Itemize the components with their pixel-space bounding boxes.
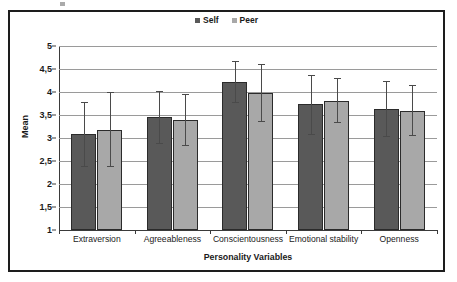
error-bar bbox=[386, 81, 387, 136]
error-bar-cap-top bbox=[334, 78, 341, 79]
bar-group bbox=[210, 46, 286, 230]
y-axis-tick-mark bbox=[52, 138, 56, 139]
y-axis-tick-label: 3,5 bbox=[39, 110, 52, 120]
error-bar bbox=[337, 78, 338, 123]
error-bar-cap-bottom bbox=[81, 166, 88, 167]
y-axis-tick-label: 1,5 bbox=[39, 202, 52, 212]
error-bar bbox=[261, 64, 262, 122]
error-bar-cap-top bbox=[156, 91, 163, 92]
x-axis-title: Personality Variables bbox=[59, 252, 437, 262]
legend-swatch-self-icon bbox=[195, 18, 200, 23]
chart-legend: Self Peer bbox=[10, 15, 443, 25]
error-bar-cap-bottom bbox=[107, 166, 114, 167]
x-axis-category-label: Openness bbox=[380, 234, 419, 244]
error-bar-cap-bottom bbox=[258, 121, 265, 122]
x-axis-tick-mark bbox=[210, 230, 211, 234]
error-bar bbox=[185, 94, 186, 146]
x-axis-category-label: Conscientousness bbox=[213, 234, 283, 244]
x-axis-tick-mark bbox=[361, 230, 362, 234]
error-bar-cap-bottom bbox=[232, 102, 239, 103]
y-axis-tick-mark bbox=[52, 92, 56, 93]
x-axis-tick-mark bbox=[59, 230, 60, 234]
error-bar bbox=[412, 85, 413, 136]
x-axis-category-labels: ExtraversionAgreeablenessConscientousnes… bbox=[59, 234, 437, 250]
error-bar-cap-top bbox=[107, 92, 114, 93]
plot-area bbox=[59, 46, 437, 230]
y-axis-title: Mean bbox=[20, 115, 30, 138]
x-axis-tick-mark bbox=[135, 230, 136, 234]
y-axis-tick-mark bbox=[52, 46, 56, 47]
x-axis-category-label: Emotional stability bbox=[289, 234, 358, 244]
error-bar-cap-bottom bbox=[308, 134, 315, 135]
error-bar-cap-top bbox=[232, 61, 239, 62]
y-axis-tick-mark bbox=[52, 161, 56, 162]
error-bar bbox=[84, 102, 85, 166]
error-bar-cap-top bbox=[308, 75, 315, 76]
legend-label-self: Self bbox=[203, 15, 219, 25]
y-axis-tick-label: 2,5 bbox=[39, 156, 52, 166]
legend-label-peer: Peer bbox=[240, 15, 258, 25]
y-axis-tick-label: 4,5 bbox=[39, 64, 52, 74]
legend-entry-peer: Peer bbox=[232, 15, 258, 25]
x-axis-category-label: Extraversion bbox=[73, 234, 121, 244]
y-axis-tick-mark bbox=[52, 184, 56, 185]
y-axis-tick-labels: 11,522,533,544,55 bbox=[30, 46, 56, 230]
bar-group bbox=[286, 46, 362, 230]
x-axis-category-label: Agreeableness bbox=[144, 234, 201, 244]
x-axis-tick-mark bbox=[437, 230, 438, 234]
error-bar-cap-bottom bbox=[334, 122, 341, 123]
chart-figure-frame: Self Peer Mean 11,522,533,544,55 Extrave… bbox=[8, 10, 445, 272]
error-bar bbox=[159, 91, 160, 143]
error-bar bbox=[110, 92, 111, 167]
bar-group bbox=[361, 46, 437, 230]
error-bar-cap-bottom bbox=[182, 145, 189, 146]
bars-layer bbox=[59, 46, 437, 230]
error-bar-cap-top bbox=[81, 102, 88, 103]
error-bar-cap-bottom bbox=[383, 136, 390, 137]
error-bar-cap-top bbox=[258, 64, 265, 65]
bar-group bbox=[59, 46, 135, 230]
legend-entry-self: Self bbox=[195, 15, 219, 25]
error-bar-cap-bottom bbox=[156, 143, 163, 144]
error-bar bbox=[235, 61, 236, 103]
y-axis-tick-mark bbox=[52, 69, 56, 70]
error-bar bbox=[311, 75, 312, 135]
bar-group bbox=[135, 46, 211, 230]
x-axis-tick-mark bbox=[286, 230, 287, 234]
error-bar-cap-top bbox=[409, 85, 416, 86]
bar-self[interactable] bbox=[222, 82, 247, 230]
y-axis-tick-mark bbox=[52, 207, 56, 208]
error-bar-cap-top bbox=[383, 81, 390, 82]
y-axis-tick-mark bbox=[52, 230, 56, 231]
error-bar-cap-bottom bbox=[409, 135, 416, 136]
legend-swatch-peer-icon bbox=[232, 18, 237, 23]
y-axis-tick-mark bbox=[52, 115, 56, 116]
error-bar-cap-top bbox=[182, 94, 189, 95]
x-axis-line bbox=[59, 230, 437, 231]
scan-artifact-speck bbox=[60, 2, 65, 6]
